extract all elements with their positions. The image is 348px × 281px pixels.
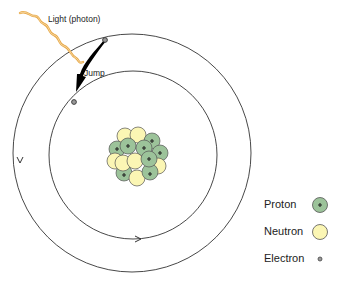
jump-label: Jump — [84, 68, 105, 78]
legend-electron-icon — [318, 257, 322, 261]
nucleus — [107, 127, 168, 186]
photon-label: Light (photon) — [48, 14, 100, 24]
legend-electron-label: Electron — [264, 252, 304, 264]
legend-proton-label: Proton — [264, 198, 296, 210]
outer-orbit-arrow-icon — [17, 157, 23, 163]
atom-diagram — [0, 0, 348, 281]
electron-outer — [103, 38, 108, 43]
jump-arrow-icon — [76, 40, 106, 92]
electron-inner — [72, 100, 77, 105]
legend-neutron-label: Neutron — [264, 225, 303, 237]
legend-neutron-icon — [313, 225, 328, 240]
